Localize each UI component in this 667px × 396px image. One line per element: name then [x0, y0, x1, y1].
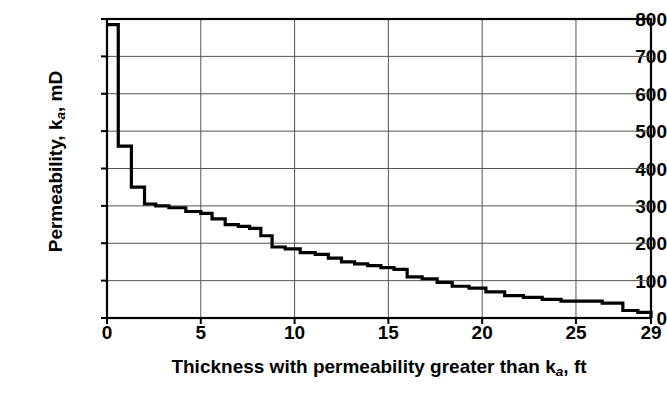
- permeability-step-chart: Permeability, ka, mD Thickness with perm…: [0, 0, 667, 396]
- tick-marks: [101, 19, 651, 324]
- step-curve: [107, 25, 651, 318]
- plot-area: [0, 0, 667, 396]
- gridlines: [107, 19, 651, 318]
